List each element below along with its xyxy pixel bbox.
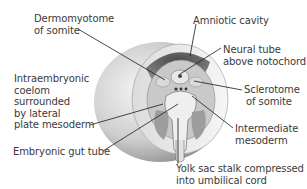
- label-line: surrounded: [14, 96, 95, 108]
- label-line: mesoderm: [235, 135, 298, 147]
- label-dermomyotome: Dermomyotome of somite: [34, 13, 114, 36]
- label-line: into umbilical cord: [176, 175, 304, 187]
- label-amniotic-cavity: Amniotic cavity: [193, 15, 269, 27]
- label-line: of somite: [244, 96, 300, 108]
- label-line: Embryonic gut tube: [13, 146, 110, 158]
- label-line: coelom: [14, 85, 95, 97]
- label-line: Intraembryonic: [14, 73, 95, 85]
- yolk-stalk: [176, 140, 184, 162]
- label-neural-tube: Neural tube above notochord: [223, 44, 306, 67]
- label-line: Sclerotome: [244, 84, 300, 96]
- label-line: Yolk sac stalk compressed: [176, 163, 304, 175]
- label-line: by lateral: [14, 108, 95, 120]
- label-intraembryonic-coelom: Intraembryonic coelom surrounded by late…: [14, 73, 95, 131]
- label-line: Intermediate: [235, 123, 298, 135]
- dorsal-aorta-right: [185, 88, 188, 91]
- label-line: Neural tube: [223, 44, 306, 56]
- label-line: above notochord: [223, 56, 306, 68]
- label-intermediate-mesoderm: Intermediate mesoderm: [235, 123, 298, 146]
- label-line: plate mesoderm: [14, 119, 95, 131]
- label-line: Amniotic cavity: [193, 15, 269, 27]
- label-line: of somite: [34, 25, 114, 37]
- dorsal-aorta-left: [180, 88, 183, 91]
- notochord: [174, 87, 177, 90]
- label-line: Dermomyotome: [34, 13, 114, 25]
- embryo-cross-section-diagram: Dermomyotome of somite Amniotic cavity N…: [0, 0, 307, 189]
- label-yolk-sac-stalk: Yolk sac stalk compressed into umbilical…: [176, 163, 304, 186]
- neural-canal: [178, 74, 182, 78]
- label-sclerotome: Sclerotome of somite: [244, 84, 300, 107]
- label-gut-tube: Embryonic gut tube: [13, 146, 110, 158]
